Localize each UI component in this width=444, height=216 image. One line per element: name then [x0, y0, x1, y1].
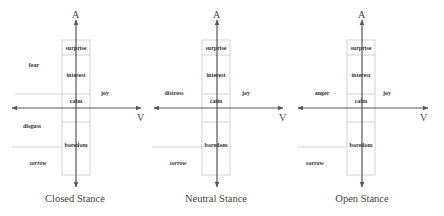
- valence-axis-label: V: [137, 112, 145, 123]
- caption-open-stance: Open Stance: [335, 193, 389, 204]
- panel-open-stance: A V surprise interest calm boredom anger…: [297, 9, 428, 204]
- panel-neutral-stance: A V surprise interest calm boredom distr…: [152, 9, 287, 204]
- label-joy: joy: [382, 90, 391, 96]
- caption-neutral-stance: Neutral Stance: [185, 193, 247, 204]
- label-boredom: boredom: [205, 142, 228, 148]
- label-sorrow: sorrow: [28, 160, 47, 166]
- label-joy: joy: [241, 90, 250, 96]
- label-surprise: surprise: [351, 45, 372, 51]
- label-boredom: boredom: [65, 142, 88, 148]
- arousal-axis-label: A: [358, 9, 366, 20]
- label-surprise: surprise: [66, 45, 87, 51]
- label-calm: calm: [210, 98, 222, 104]
- panel-closed-stance: A V surprise interest calm boredom fear …: [12, 9, 145, 204]
- label-sorrow: sorrow: [306, 160, 325, 166]
- valence-axis-label: V: [279, 112, 287, 123]
- valence-axis-label: V: [420, 112, 428, 123]
- caption-closed-stance: Closed Stance: [45, 193, 105, 204]
- label-distress: distress: [164, 90, 184, 96]
- label-boredom: boredom: [350, 142, 373, 148]
- label-surprise: surprise: [206, 45, 227, 51]
- stance-diagram: A V surprise interest calm boredom fear …: [0, 0, 444, 216]
- label-interest: interest: [206, 72, 225, 78]
- label-interest: interest: [66, 72, 85, 78]
- label-fear: fear: [29, 62, 40, 68]
- label-calm: calm: [355, 98, 367, 104]
- arousal-axis-label: A: [72, 9, 80, 20]
- label-joy: joy: [100, 90, 109, 96]
- label-interest: interest: [351, 72, 370, 78]
- label-sorrow: sorrow: [168, 160, 187, 166]
- label-anger: anger: [315, 90, 330, 96]
- label-disgust: disgust: [23, 123, 41, 129]
- arousal-axis-label: A: [213, 9, 221, 20]
- label-calm: calm: [70, 98, 82, 104]
